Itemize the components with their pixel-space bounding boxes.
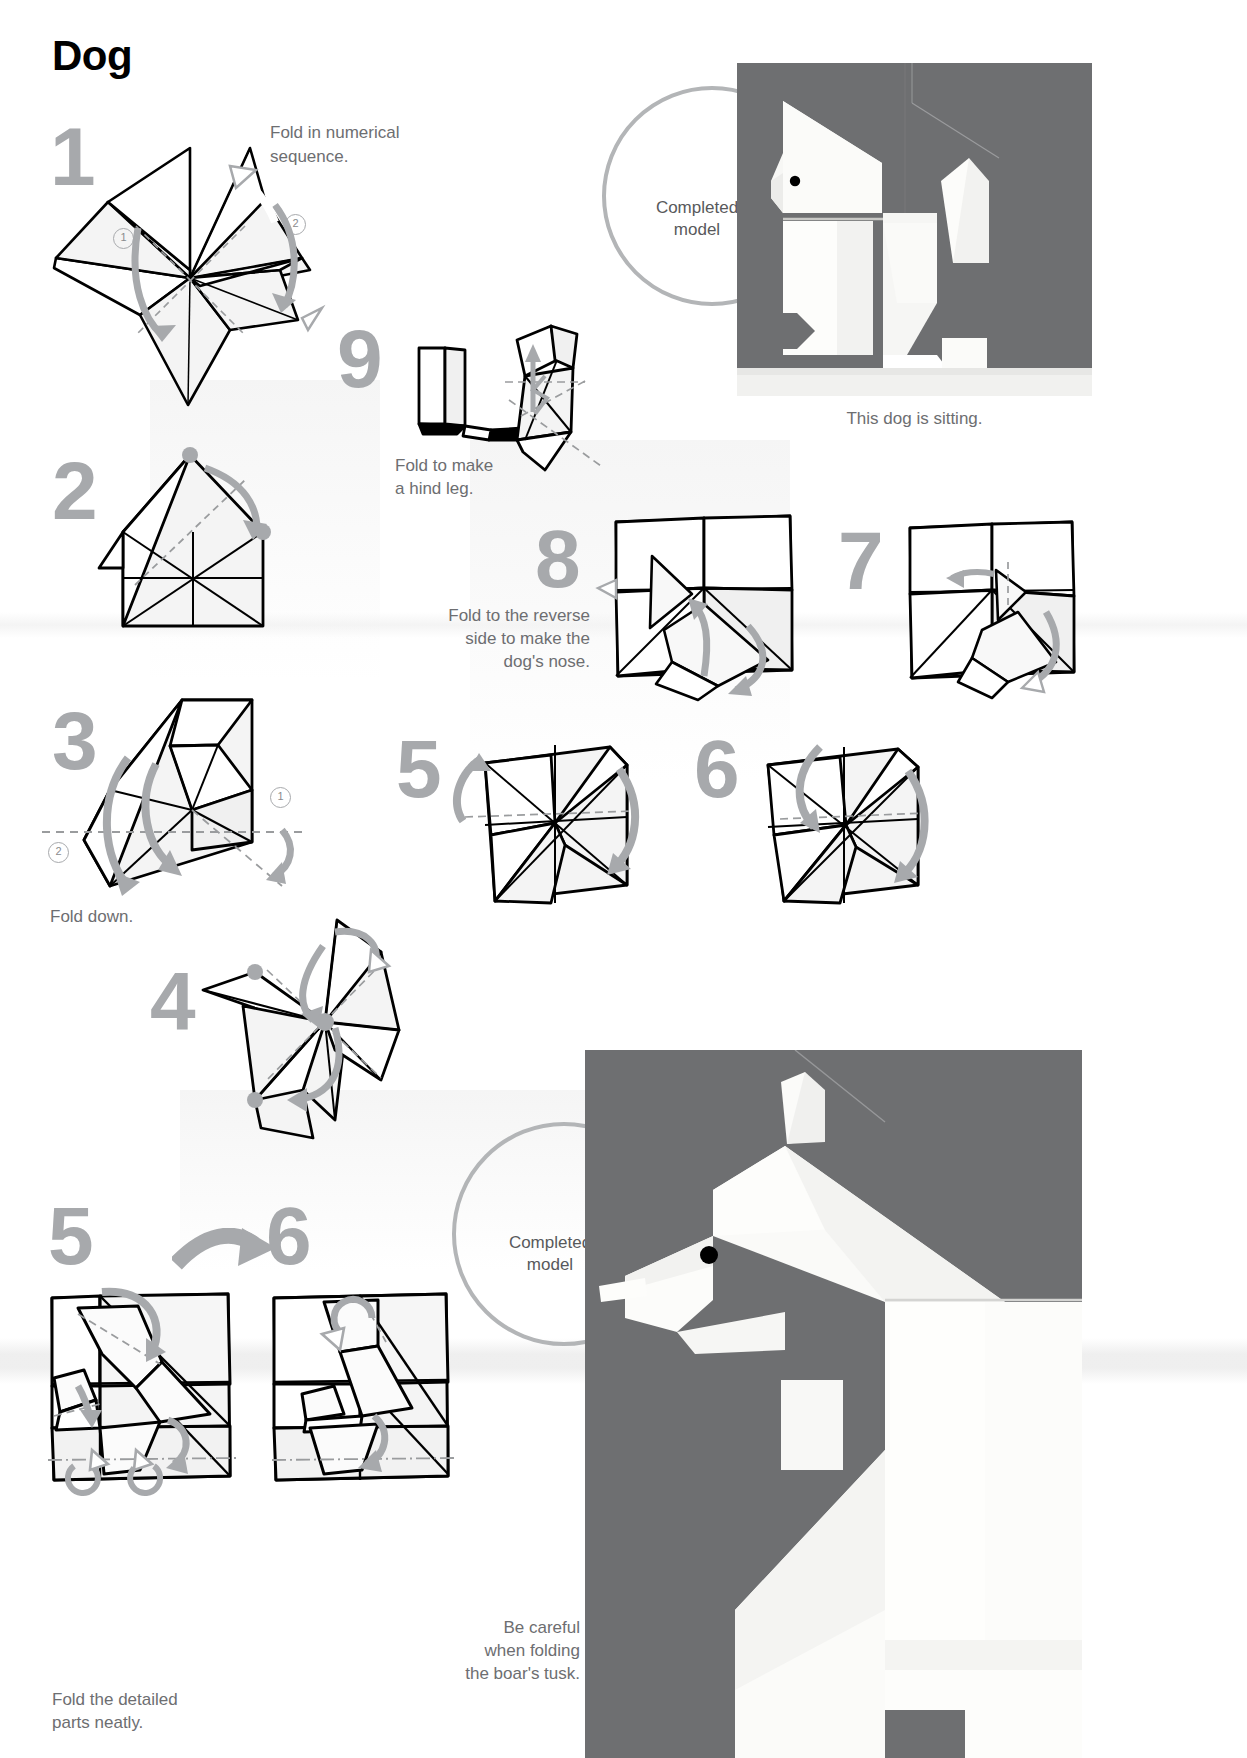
origami-instruction-page: Dog 1 Fold in numerical sequence. xyxy=(0,0,1247,1758)
completed-model-dog-caption: This dog is sitting. xyxy=(737,408,1092,430)
step-8-number: 8 xyxy=(535,518,581,600)
step-4-diagram xyxy=(185,910,420,1150)
step-8-caption-line2: side to make the xyxy=(340,628,590,650)
bottom-step-6-number: 6 xyxy=(266,1195,312,1277)
step-6-diagram xyxy=(750,735,940,915)
step-2-number: 2 xyxy=(52,450,98,532)
completed-model-dog-photo xyxy=(737,63,1092,396)
bottom-step-5-caption-line2: parts neatly. xyxy=(52,1712,143,1734)
step-1-sub-number-2: 2 xyxy=(285,214,306,235)
step-8-diagram xyxy=(600,508,815,703)
bottom-step-5-caption-line1: Fold the detailed xyxy=(52,1689,178,1711)
step-9-caption-line1: Fold to make xyxy=(395,455,493,477)
step-1-sub-number-1: 1 xyxy=(113,228,134,249)
completed-model-boar-caption-line2: when folding xyxy=(330,1640,580,1662)
step-7-number: 7 xyxy=(838,520,884,602)
step-6-number: 6 xyxy=(694,728,740,810)
step-8-caption-line1: Fold to the reverse xyxy=(340,605,590,627)
bottom-step-5-number: 5 xyxy=(48,1195,94,1277)
step-5-diagram xyxy=(455,735,655,915)
completed-model-boar-caption-line3: the boar's tusk. xyxy=(330,1663,580,1685)
step-9-number: 9 xyxy=(337,318,383,400)
step-7-diagram xyxy=(896,512,1096,702)
step-3-sub-number-1: 1 xyxy=(270,787,291,808)
step-9-caption-line2: a hind leg. xyxy=(395,478,473,500)
completed-model-boar-photo xyxy=(585,1050,1082,1758)
completed-model-boar-caption-line1: Be careful xyxy=(330,1617,580,1639)
step-3-caption: Fold down. xyxy=(50,906,133,928)
step-5-number: 5 xyxy=(396,728,442,810)
step-2-diagram xyxy=(95,440,295,640)
step-8-caption-line3: dog's nose. xyxy=(340,651,590,673)
step-1-diagram xyxy=(40,130,350,420)
step-3-sub-number-2: 2 xyxy=(48,842,69,863)
page-title: Dog xyxy=(52,32,132,80)
bottom-step-6-diagram xyxy=(266,1288,461,1488)
bottom-step-5-diagram xyxy=(40,1288,245,1488)
